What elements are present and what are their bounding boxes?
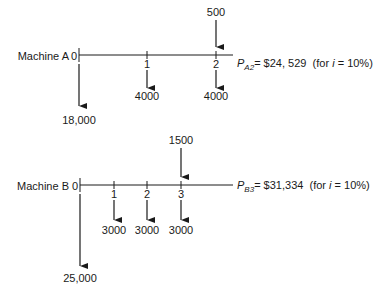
machine-b-present-worth: PB3= $31,334 (for i = 10%)	[237, 179, 370, 196]
pv-value: = $31,334	[254, 179, 303, 191]
machine-b-amount-p3: 3000	[169, 224, 193, 236]
pv-note-suffix: = 10%)	[335, 57, 373, 69]
machine-b-amount-p1: 3000	[102, 224, 126, 236]
machine-a-timeline	[79, 48, 233, 62]
machine-a-present-worth: PA2= $24, 529 (for i = 10%)	[237, 57, 373, 74]
machine-a-amount-p2: 4000	[204, 90, 228, 102]
machine-a-label: Machine A	[18, 50, 69, 62]
machine-a-amount-500: 500	[207, 6, 225, 18]
machine-b-period-0: 0	[72, 180, 78, 192]
machine-a-amount-p1: 4000	[135, 90, 159, 102]
pv-subscript: A2	[244, 63, 254, 72]
machine-b-label: Machine B	[17, 180, 69, 192]
machine-a-period-0: 0	[71, 50, 77, 62]
pv-note-suffix: = 10%)	[332, 179, 370, 191]
pv-value: = $24, 529	[254, 57, 306, 69]
machine-b-period-1: 1	[111, 188, 117, 200]
machine-b-amount-p0: 25,000	[63, 272, 97, 284]
machine-b-amount-p2: 3000	[135, 224, 159, 236]
pv-note-prefix: (for	[313, 57, 333, 69]
machine-b-amount-1500: 1500	[169, 134, 193, 146]
pv-note-prefix: (for	[310, 179, 330, 191]
machine-a-amount-p0: 18,000	[62, 114, 96, 126]
machine-b-period-3: 3	[178, 188, 184, 200]
machine-b-period-2: 2	[144, 188, 150, 200]
machine-a-period-1: 1	[144, 58, 150, 70]
pv-subscript: B3	[244, 185, 254, 194]
machine-a-period-2: 2	[213, 58, 219, 70]
machine-b-timeline	[80, 178, 233, 192]
